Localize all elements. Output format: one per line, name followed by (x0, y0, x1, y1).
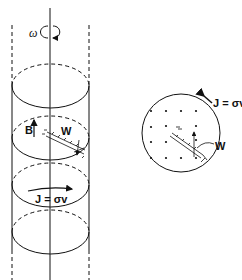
omega-label: ω (29, 26, 37, 40)
wire-label-right: W (215, 140, 226, 152)
wire-label-left: W (61, 125, 72, 137)
cross-section-circle (142, 94, 220, 172)
b-field-label: B (25, 124, 33, 136)
diagram-canvas: ω B W J = σv J = σv (0, 0, 242, 280)
current-label-left: J = σv (35, 193, 68, 205)
current-label-right: J = σv (213, 97, 242, 109)
wire-right (170, 127, 214, 162)
